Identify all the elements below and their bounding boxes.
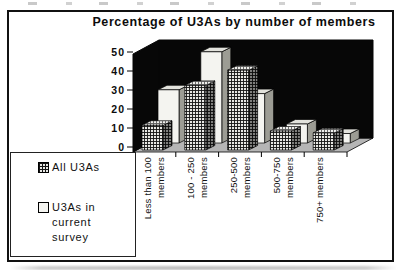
bar-front-face (185, 85, 206, 150)
legend: All U3As U3As in current survey (10, 152, 136, 257)
bar-side-shade (206, 81, 215, 150)
bar-front-face (270, 131, 291, 150)
bar-front-face (228, 70, 249, 150)
bar-front-face (142, 125, 163, 150)
bar-all-u3as-0 (142, 121, 172, 150)
bar-front-face (313, 133, 334, 150)
bar-side-shade (163, 121, 172, 150)
bar-side-shade (249, 66, 258, 150)
legend-item-all-u3as: All U3As (38, 160, 135, 175)
bar-all-u3as-1 (185, 81, 215, 150)
chart-title: Percentage of U3As by number of members (80, 15, 388, 29)
legend-label-current-survey: U3As in current survey (52, 200, 116, 245)
plot-3d-scene (127, 40, 373, 157)
crosshatch-swatch-icon (38, 162, 49, 173)
white-swatch-icon (38, 202, 49, 213)
scan-artifact-bottom (10, 266, 397, 270)
legend-label-all-u3as: All U3As (52, 160, 116, 175)
bar-all-u3as-4 (313, 128, 343, 150)
bar-all-u3as-2 (228, 66, 258, 150)
bar-all-u3as-3 (270, 127, 300, 151)
legend-item-current-survey: U3As in current survey (38, 200, 135, 245)
scanned-chart-page: 01020304050Less than 100members100 - 250… (0, 0, 403, 270)
